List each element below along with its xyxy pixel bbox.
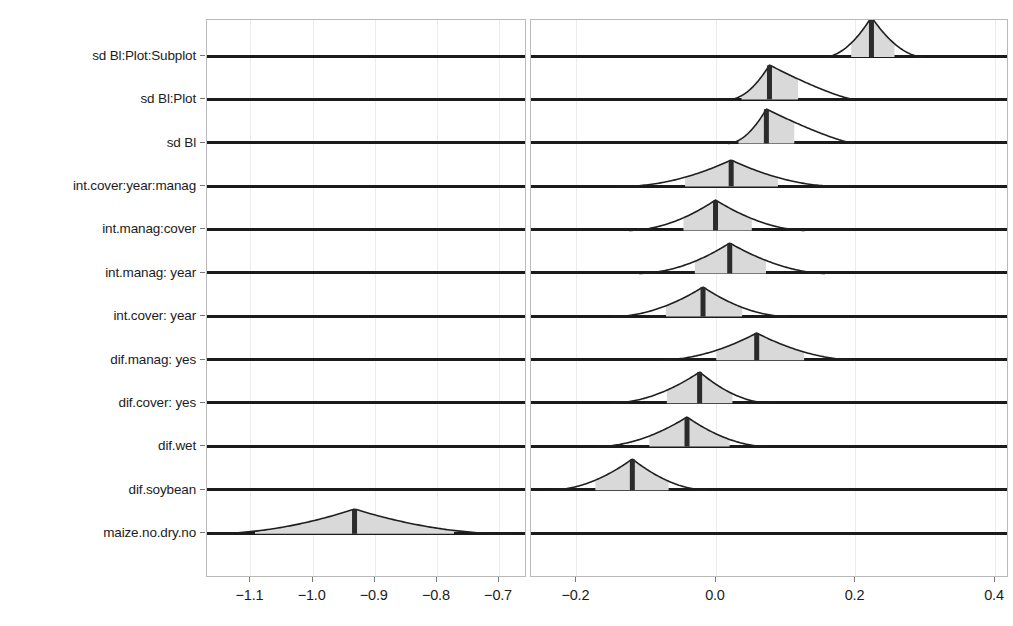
- density-curve: [597, 415, 768, 449]
- median-bar: [727, 243, 732, 273]
- median-bar: [754, 333, 759, 360]
- y-axis-tick-label: int.cover: year: [113, 308, 196, 323]
- x-axis-tick-mark: [249, 577, 250, 582]
- y-axis-tick-mark: [200, 98, 205, 99]
- row-baseline: [207, 488, 525, 491]
- density-curve: [729, 63, 853, 101]
- x-axis-tick-label: −0.2: [561, 587, 589, 603]
- y-axis-tick-label: sd Bl: [167, 134, 196, 149]
- y-axis-tick-mark: [200, 272, 205, 273]
- y-axis-tick-label: sd Bl:Plot: [140, 91, 196, 106]
- y-axis-tick-label: dif.wet: [158, 438, 196, 453]
- median-bar: [869, 19, 874, 57]
- gridline: [499, 20, 500, 576]
- y-axis-tick-label: dif.soybean: [129, 481, 196, 496]
- right-panel: [530, 19, 1008, 577]
- row-baseline: [531, 55, 1007, 58]
- row-baseline: [207, 55, 525, 58]
- y-axis-tick-mark: [200, 359, 205, 360]
- x-axis-tick-label: −0.7: [484, 587, 512, 603]
- gridline: [437, 20, 438, 576]
- credible-interval-fill: [550, 459, 708, 490]
- y-axis-tick-label: dif.cover: yes: [119, 394, 196, 409]
- gridline: [855, 20, 856, 576]
- density-curve: [728, 107, 854, 145]
- density-ridgeline-chart: sd Bl:Plot:Subplotsd Bl:Plotsd Blint.cov…: [0, 0, 1013, 626]
- gridline: [313, 20, 314, 576]
- y-axis-tick-mark: [200, 55, 205, 56]
- credible-interval-fill: [211, 509, 507, 534]
- gridline: [995, 20, 996, 576]
- y-axis-tick-mark: [200, 489, 205, 490]
- median-bar: [697, 372, 702, 403]
- row-baseline: [207, 401, 525, 404]
- median-bar: [713, 200, 718, 230]
- density-curve: [629, 198, 805, 232]
- density-curve: [623, 158, 838, 188]
- x-axis-tick-mark: [312, 577, 313, 582]
- row-baseline: [207, 185, 525, 188]
- x-axis-tick-label: −1.1: [236, 587, 264, 603]
- y-axis-tick-label: int.manag:cover: [102, 221, 196, 236]
- density-curve: [611, 370, 770, 405]
- x-axis-tick-mark: [994, 577, 995, 582]
- gridline: [250, 20, 251, 576]
- x-axis-tick-mark: [436, 577, 437, 582]
- median-bar: [700, 287, 705, 316]
- row-baseline: [207, 315, 525, 318]
- median-bar: [685, 418, 690, 447]
- row-baseline: [207, 445, 525, 448]
- x-axis-tick-mark: [498, 577, 499, 582]
- x-axis-tick-mark: [715, 577, 716, 582]
- credible-interval-fill: [597, 417, 768, 446]
- density-curve: [550, 457, 708, 492]
- density-curve: [824, 19, 924, 59]
- x-axis-tick-label: −0.9: [360, 587, 388, 603]
- density-curve: [613, 285, 788, 319]
- row-baseline: [207, 358, 525, 361]
- x-axis-tick-mark: [374, 577, 375, 582]
- median-bar: [352, 509, 357, 533]
- density-curve: [211, 507, 507, 536]
- median-bar: [729, 161, 734, 187]
- density-curve: [659, 331, 858, 362]
- x-axis-tick-label: 0.0: [705, 587, 725, 603]
- x-axis-tick-mark: [575, 577, 576, 582]
- y-axis-tick-mark: [200, 532, 205, 533]
- x-axis-tick-label: −0.8: [422, 587, 450, 603]
- x-axis-tick-mark: [854, 577, 855, 582]
- density-curve: [639, 241, 825, 275]
- y-axis-tick-mark: [200, 402, 205, 403]
- x-axis-tick-label: 0.4: [984, 587, 1004, 603]
- y-axis-tick-mark: [200, 142, 205, 143]
- y-axis-tick-label: int.manag: year: [105, 264, 196, 279]
- x-axis-tick-label: 0.2: [845, 587, 865, 603]
- gridline: [576, 20, 577, 576]
- median-bar: [767, 66, 772, 100]
- y-axis-tick-mark: [200, 315, 205, 316]
- row-baseline: [207, 271, 525, 274]
- gridline: [375, 20, 376, 576]
- y-axis-tick-label: int.cover:year:manag: [73, 178, 196, 193]
- row-baseline: [531, 532, 1007, 535]
- y-axis-tick-mark: [200, 185, 205, 186]
- row-baseline: [207, 228, 525, 231]
- y-axis-tick-mark: [200, 445, 205, 446]
- y-axis-tick-label: sd Bl:Plot:Subplot: [92, 48, 196, 63]
- y-axis-tick-label: maize.no.dry.no: [103, 525, 196, 540]
- median-bar: [764, 109, 769, 143]
- x-axis-tick-label: −1.0: [298, 587, 326, 603]
- y-axis-tick-label: dif.manag: yes: [110, 351, 196, 366]
- left-panel: [206, 19, 526, 577]
- row-baseline: [207, 141, 525, 144]
- row-baseline: [207, 98, 525, 101]
- median-bar: [630, 459, 635, 490]
- y-axis-tick-mark: [200, 228, 205, 229]
